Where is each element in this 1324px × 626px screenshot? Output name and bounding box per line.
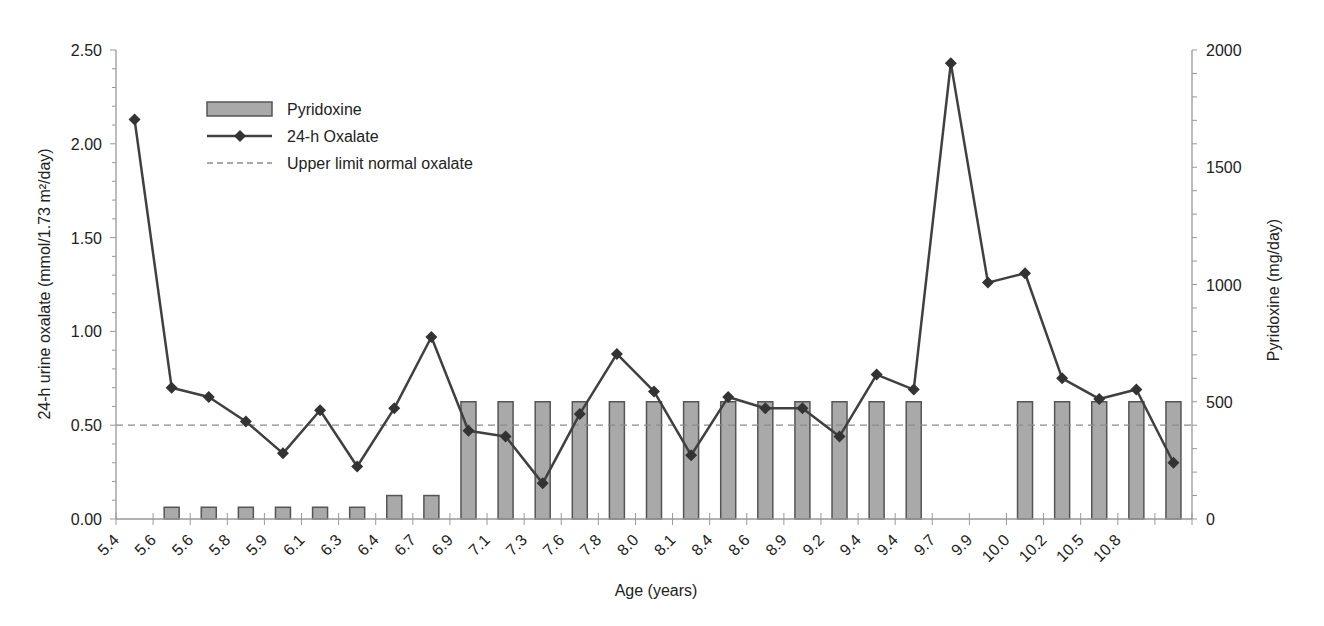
pyridoxine-bar bbox=[350, 507, 365, 519]
x-tick-label: 6.9 bbox=[428, 531, 456, 559]
x-axis: 5.45.65.65.85.96.16.36.46.76.97.17.37.67… bbox=[94, 513, 1192, 565]
diamond-marker-icon bbox=[982, 277, 994, 289]
diamond-marker-icon bbox=[1056, 372, 1068, 384]
x-tick-label: 7.1 bbox=[465, 531, 493, 559]
pyridoxine-bar bbox=[164, 507, 179, 519]
pyridoxine-bar bbox=[832, 402, 847, 519]
pyridoxine-bar bbox=[275, 507, 290, 519]
left-y-tick-label: 2.00 bbox=[71, 136, 102, 153]
x-tick-label: 5.9 bbox=[243, 531, 271, 559]
pyridoxine-bar bbox=[387, 496, 402, 519]
left-y-tick-label: 2.50 bbox=[71, 42, 102, 59]
x-tick-label: 7.8 bbox=[577, 531, 605, 559]
x-tick-label: 10.5 bbox=[1053, 531, 1087, 565]
pyridoxine-bar bbox=[609, 402, 624, 519]
x-tick-label: 7.6 bbox=[540, 531, 568, 559]
x-tick-label: 5.4 bbox=[94, 531, 122, 559]
left-y-axis: 0.000.501.001.502.002.50 bbox=[71, 42, 116, 528]
x-tick-label: 9.7 bbox=[911, 531, 939, 559]
right-y-tick-label: 1000 bbox=[1206, 277, 1242, 294]
x-tick-label: 6.4 bbox=[354, 531, 382, 559]
left-y-tick-label: 1.00 bbox=[71, 323, 102, 340]
x-tick-label: 9.4 bbox=[836, 531, 864, 559]
right-y-tick-label: 2000 bbox=[1206, 42, 1242, 59]
diamond-marker-icon bbox=[234, 130, 246, 142]
pyridoxine-bar bbox=[869, 402, 884, 519]
x-tick-label: 9.2 bbox=[799, 531, 827, 559]
diamond-marker-icon bbox=[166, 382, 178, 394]
left-y-axis-title: 24-h urine oxalate (mmol/1.73 m²/day) bbox=[36, 148, 53, 419]
diamond-marker-icon bbox=[388, 402, 400, 414]
x-tick-label: 7.3 bbox=[503, 531, 531, 559]
right-y-tick-label: 0 bbox=[1206, 511, 1215, 528]
pyridoxine-bar bbox=[758, 402, 773, 519]
pyridoxine-bar bbox=[721, 402, 736, 519]
x-tick-label: 8.4 bbox=[688, 531, 716, 559]
pyridoxine-bars bbox=[164, 402, 1181, 519]
x-tick-label: 8.1 bbox=[651, 531, 679, 559]
chart-canvas: 0.000.501.001.502.002.50 050010001500200… bbox=[0, 0, 1324, 626]
x-tick-label: 6.7 bbox=[391, 531, 419, 559]
x-tick-label: 9.4 bbox=[874, 531, 902, 559]
legend-label-upper-limit: Upper limit normal oxalate bbox=[287, 155, 473, 172]
x-tick-label: 5.6 bbox=[169, 531, 197, 559]
pyridoxine-bar bbox=[647, 402, 662, 519]
pyridoxine-bar bbox=[238, 507, 253, 519]
legend: Pyridoxine 24-h Oxalate Upper limit norm… bbox=[207, 101, 473, 172]
pyridoxine-bar bbox=[1129, 402, 1144, 519]
legend-label-oxalate: 24-h Oxalate bbox=[287, 128, 379, 145]
right-y-tick-label: 500 bbox=[1206, 394, 1233, 411]
x-tick-label: 10.8 bbox=[1090, 531, 1124, 565]
pyridoxine-bar bbox=[906, 402, 921, 519]
pyridoxine-bar bbox=[1092, 402, 1107, 519]
diamond-marker-icon bbox=[945, 57, 957, 69]
left-y-tick-label: 0.00 bbox=[71, 511, 102, 528]
pyridoxine-bar bbox=[424, 496, 439, 519]
diamond-marker-icon bbox=[871, 369, 883, 381]
right-y-axis: 0500100015002000 bbox=[1192, 42, 1242, 528]
x-tick-label: 8.0 bbox=[614, 531, 642, 559]
pyridoxine-bar bbox=[498, 402, 513, 519]
x-tick-label: 8.6 bbox=[725, 531, 753, 559]
pyridoxine-bar bbox=[1055, 402, 1070, 519]
x-tick-label: 5.8 bbox=[206, 531, 234, 559]
left-y-tick-label: 0.50 bbox=[71, 417, 102, 434]
pyridoxine-bar bbox=[1018, 402, 1033, 519]
right-y-axis-title: Pyridoxine (mg/day) bbox=[1265, 219, 1282, 361]
right-y-tick-label: 1500 bbox=[1206, 159, 1242, 176]
x-tick-label: 10.0 bbox=[979, 531, 1013, 565]
pyridoxine-bar bbox=[795, 402, 810, 519]
diamond-marker-icon bbox=[1130, 384, 1142, 396]
pyridoxine-bar bbox=[313, 507, 328, 519]
x-tick-label: 10.2 bbox=[1016, 531, 1050, 565]
left-y-tick-label: 1.50 bbox=[71, 230, 102, 247]
legend-label-pyridoxine: Pyridoxine bbox=[287, 101, 362, 118]
x-tick-label: 8.9 bbox=[762, 531, 790, 559]
pyridoxine-bar bbox=[201, 507, 216, 519]
diamond-marker-icon bbox=[1019, 267, 1031, 279]
diamond-marker-icon bbox=[425, 331, 437, 343]
diamond-marker-icon bbox=[908, 384, 920, 396]
x-tick-label: 5.6 bbox=[131, 531, 159, 559]
pyridoxine-bar bbox=[535, 402, 550, 519]
diamond-marker-icon bbox=[129, 113, 141, 125]
x-tick-label: 6.1 bbox=[280, 531, 308, 559]
x-axis-title: Age (years) bbox=[615, 582, 698, 599]
x-tick-label: 9.9 bbox=[948, 531, 976, 559]
x-tick-label: 6.3 bbox=[317, 531, 345, 559]
legend-swatch-pyridoxine bbox=[207, 102, 272, 116]
